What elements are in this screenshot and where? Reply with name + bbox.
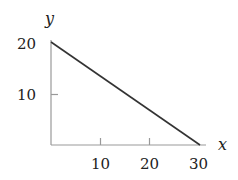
y-tick-label-10: 10 [17, 86, 36, 104]
x-tick-label-20: 20 [140, 155, 159, 173]
x-axis-label: x [218, 135, 227, 154]
x-tick-label-30: 30 [189, 155, 208, 173]
y-axis-label: y [44, 9, 55, 28]
x-tick-label-10: 10 [91, 155, 110, 173]
axes [51, 40, 206, 145]
tick-labels: 20 10 10 20 30 [17, 35, 208, 173]
data-line [51, 42, 200, 145]
chart: 20 10 10 20 30 y x [0, 0, 238, 180]
y-tick-label-20: 20 [17, 35, 36, 53]
